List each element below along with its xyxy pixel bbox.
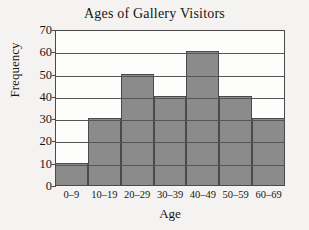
- gridline-40: [56, 98, 284, 99]
- x-tick-label-0: 0–9: [55, 189, 88, 200]
- x-tick-label-4: 40–49: [186, 189, 219, 200]
- bar-10–19: [88, 118, 121, 185]
- y-tick-label-30: 30: [30, 113, 52, 125]
- x-axis-label: Age: [55, 206, 285, 222]
- bar-60–69: [252, 118, 284, 185]
- x-tick-label-2: 20–29: [121, 189, 154, 200]
- histogram-figure: Ages of Gallery Visitors Frequency 01020…: [0, 0, 309, 230]
- bar-0–9: [56, 163, 88, 185]
- y-tick-mark-0: [52, 186, 56, 187]
- y-tick-label-70: 70: [30, 24, 52, 36]
- y-tick-label-60: 60: [30, 46, 52, 58]
- gridline-60: [56, 53, 284, 54]
- x-tick-label-6: 60–69: [252, 189, 285, 200]
- y-tick-label-10: 10: [30, 158, 52, 170]
- chart-title: Ages of Gallery Visitors: [0, 6, 309, 22]
- y-tick-label-40: 40: [30, 91, 52, 103]
- y-axis-tick-labels: 010203040506070: [27, 30, 52, 186]
- bar-50–59: [219, 96, 252, 185]
- gridline-10: [56, 165, 284, 166]
- x-tick-label-3: 30–39: [154, 189, 187, 200]
- gridline-50: [56, 76, 284, 77]
- gridline-30: [56, 120, 284, 121]
- y-tick-label-20: 20: [30, 135, 52, 147]
- x-axis-tick-labels: 0–910–1920–2930–3940–4950–5960–69: [55, 189, 285, 200]
- bar-30–39: [154, 96, 187, 185]
- gridline-20: [56, 142, 284, 143]
- y-tick-label-50: 50: [30, 69, 52, 81]
- bar-20–29: [121, 74, 154, 185]
- x-tick-label-1: 10–19: [88, 189, 121, 200]
- y-axis-label: Frequency: [7, 25, 23, 115]
- y-tick-label-0: 0: [30, 180, 52, 192]
- x-tick-label-5: 50–59: [219, 189, 252, 200]
- plot-area: [55, 30, 285, 186]
